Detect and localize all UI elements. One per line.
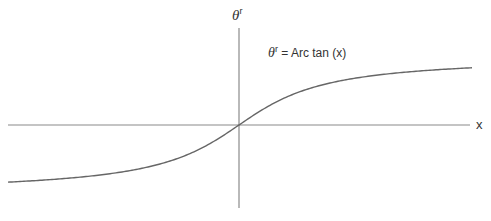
arctan-plot: [0, 0, 491, 221]
y-axis-label: θr: [232, 6, 242, 24]
curve-equation-label: θr = Arc tan (x): [268, 44, 346, 61]
x-axis-label: x: [476, 117, 483, 132]
